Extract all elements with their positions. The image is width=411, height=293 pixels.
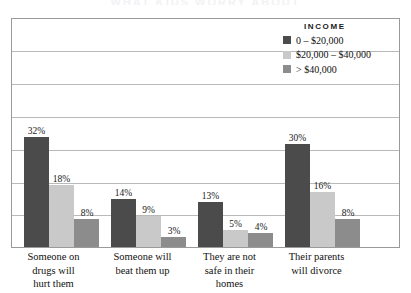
category-label-line: beat them up [95,264,190,278]
legend-swatch-icon [283,65,291,73]
legend-item-label: 0 – $20,000 [296,35,344,46]
legend-item-label: > $40,000 [296,64,337,75]
category-label-line: will divorce [269,264,364,278]
category-label-line: homes [182,277,277,291]
category-label-line: Someone will [95,250,190,264]
bar-value-label: 18% [46,174,77,184]
bar-series-2[interactable] [335,219,360,247]
bar-value-label: 16% [307,181,338,191]
bar-series-2[interactable] [248,233,273,247]
bar-value-label: 3% [161,226,187,236]
bar-series-2[interactable] [74,219,99,247]
category-label-3: Their parents will divorce [269,250,364,277]
legend-item-income-high[interactable]: > $40,000 [283,63,403,75]
bar-series-0[interactable] [24,137,49,247]
legend-swatch-icon [283,36,291,44]
bar-series-1[interactable] [310,192,335,247]
bar-series-2[interactable] [161,237,186,247]
bar-value-label: 4% [248,222,274,232]
category-label-line: drugs will [6,264,101,278]
bar-series-0[interactable] [285,144,310,247]
legend-swatch-icon [283,51,291,59]
chart-title: WHAT KIDS WORRY ABOUT [0,0,411,5]
category-label-line: Someone on [6,250,101,264]
bar-group: 14% 9% 3% [111,19,195,247]
bar-series-1[interactable] [223,230,248,247]
category-label-line: They are not [182,250,277,264]
legend-item-label: $20,000 – $40,000 [296,49,371,60]
bar-value-label: 30% [282,133,313,143]
category-label-line: safe in their [182,264,277,278]
category-label-2: They are not safe in their homes [182,250,277,291]
legend-item-income-low[interactable]: 0 – $20,000 [283,34,403,46]
legend: INCOME 0 – $20,000 $20,000 – $40,000 > $… [283,22,403,78]
bar-value-label: 9% [135,205,162,215]
category-axis-labels: Someone on drugs will hurt them Someone … [11,250,400,293]
bar-value-label: 8% [335,208,361,218]
bar-series-1[interactable] [49,185,74,247]
legend-title: INCOME [304,22,403,31]
bar-value-label: 32% [21,126,52,136]
bar-series-0[interactable] [198,202,223,247]
bar-group: 32% 18% 8% [24,19,108,247]
category-label-1: Someone will beat them up [95,250,190,277]
bar-value-label: 14% [108,188,139,198]
bar-value-label: 13% [195,191,226,201]
bar-value-label: 5% [222,219,249,229]
bar-series-0[interactable] [111,199,136,247]
category-label-0: Someone on drugs will hurt them [6,250,101,291]
legend-item-income-mid[interactable]: $20,000 – $40,000 [283,49,403,61]
category-label-line: Their parents [269,250,364,264]
bar-value-label: 8% [74,208,100,218]
bar-series-1[interactable] [136,216,161,247]
grouped-bar-chart: WHAT KIDS WORRY ABOUT 32% 18% 8% 14% [0,0,411,293]
category-label-line: hurt them [6,277,101,291]
bar-group: 13% 5% 4% [198,19,282,247]
